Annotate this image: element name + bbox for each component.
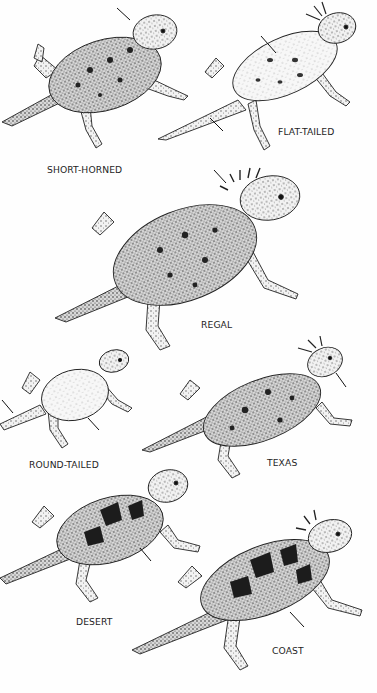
label-flat-tailed: FLAT-TAILED	[278, 126, 334, 137]
horned-lizard-plate: SHORT-HORNED FLAT-TAILED REGAL ROUND-TAI…	[0, 0, 377, 693]
lizard-regal	[55, 168, 303, 350]
lizard-short-horned	[2, 8, 188, 148]
label-texas: TEXAS	[267, 457, 297, 468]
lizard-desert	[0, 465, 200, 602]
label-short-horned: SHORT-HORNED	[47, 164, 122, 175]
label-desert: DESERT	[76, 616, 112, 627]
illustrations	[0, 0, 377, 693]
lizard-texas	[142, 336, 352, 478]
label-round-tailed: ROUND-TAILED	[29, 459, 99, 470]
label-coast: COAST	[272, 645, 304, 656]
label-regal: REGAL	[201, 319, 232, 330]
lizard-round-tailed	[0, 346, 132, 448]
